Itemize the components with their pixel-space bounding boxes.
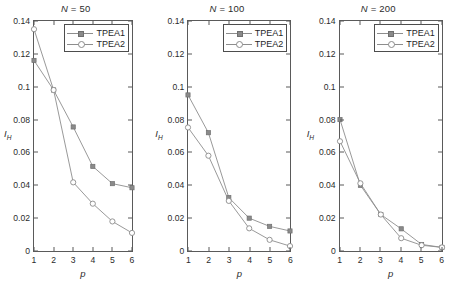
- x-axis-tick-mark: [229, 247, 230, 251]
- y-axis-tick-label: 0.04: [319, 180, 340, 190]
- x-axis-tick-label: 2: [358, 251, 363, 265]
- legend-label: TPEA2: [252, 39, 284, 49]
- y-axis-tick-label: 0.12: [13, 49, 34, 59]
- data-point-marker-circle: [51, 87, 56, 92]
- x-axis-tick-mark: [34, 247, 35, 251]
- x-axis-tick-label: 4: [398, 251, 403, 265]
- panel-n-200: N = 200 IH TPEA1 TPEA2 00.020.040.060.08…: [303, 0, 454, 287]
- panel-title-equals: =: [68, 3, 79, 14]
- legend-entry-tpea1: TPEA1: [226, 27, 284, 38]
- y-axis-label: IH: [307, 128, 314, 141]
- figure-three-panel-line-charts: N = 50 IH TPEA1 TPEA2 00.020.040.060.080…: [0, 0, 454, 287]
- x-axis-tick-mark: [421, 247, 422, 251]
- y-axis-tick-mark: [128, 152, 132, 153]
- y-axis-tick-label: 0.1: [172, 82, 188, 92]
- y-axis-tick-mark: [438, 119, 442, 120]
- y-axis-tick-mark: [34, 152, 38, 153]
- x-axis-tick-mark: [53, 247, 54, 251]
- y-axis-tick-mark: [438, 218, 442, 219]
- x-axis-tick-mark: [208, 21, 209, 25]
- x-axis-tick-mark: [441, 21, 442, 25]
- x-axis-tick-mark: [188, 247, 189, 251]
- y-axis-tick-mark: [34, 185, 38, 186]
- panel-n-100: N = 100 IH TPEA1 TPEA2 00.020.040.060.08…: [151, 0, 302, 287]
- x-axis-tick-mark: [421, 21, 422, 25]
- panel-title-variable: N: [361, 3, 368, 14]
- panel-title-value: 200: [379, 3, 395, 14]
- legend-entry-tpea2: TPEA2: [377, 38, 435, 49]
- x-axis-tick-label: 4: [247, 251, 252, 265]
- y-axis-tick-mark: [34, 119, 38, 120]
- data-point-marker-square: [91, 164, 95, 168]
- y-axis-tick-label: 0.06: [168, 147, 189, 157]
- legend-entry-tpea2: TPEA2: [67, 38, 125, 49]
- data-point-marker-circle: [31, 27, 36, 32]
- y-axis-tick-label: 0.08: [168, 115, 189, 125]
- y-axis-tick-mark: [340, 119, 344, 120]
- series-line-tpea2: [188, 127, 290, 246]
- y-axis-tick-label: 0.08: [13, 115, 34, 125]
- y-axis-label: IH: [4, 128, 11, 141]
- panel-title-variable: N: [61, 3, 68, 14]
- y-axis-tick-label: 0.06: [13, 147, 34, 157]
- x-axis-tick-label: 6: [130, 251, 135, 265]
- y-axis-tick-label: 0.02: [319, 213, 340, 223]
- y-axis-tick-mark: [438, 152, 442, 153]
- data-point-marker-circle: [337, 139, 342, 144]
- x-axis-tick-mark: [92, 21, 93, 25]
- y-axis-tick-label: 0.08: [319, 115, 340, 125]
- y-axis-tick-mark: [340, 53, 344, 54]
- y-axis-tick-mark: [340, 185, 344, 186]
- x-axis-tick-mark: [290, 247, 291, 251]
- panel-title: N = 200: [303, 3, 454, 14]
- legend-marker-open-circle-icon: [226, 38, 252, 49]
- legend: TPEA1 TPEA2: [64, 24, 129, 52]
- data-point-marker-square: [247, 216, 251, 220]
- x-axis-tick-label: 1: [186, 251, 191, 265]
- data-point-marker-square: [110, 182, 114, 186]
- x-axis-tick-mark: [112, 21, 113, 25]
- series-line-tpea1: [340, 120, 442, 248]
- series-layer: [188, 21, 290, 251]
- x-axis-tick-mark: [290, 21, 291, 25]
- data-point-marker-square: [130, 186, 134, 190]
- series-line-tpea1: [34, 60, 132, 187]
- series-line-tpea2: [34, 29, 132, 233]
- y-axis-tick-mark: [340, 152, 344, 153]
- y-axis-tick-mark: [438, 185, 442, 186]
- y-axis-tick-label: 0.14: [168, 16, 189, 26]
- y-axis-tick-mark: [340, 21, 344, 22]
- legend-label: TPEA1: [93, 28, 125, 38]
- series-layer: [340, 21, 442, 251]
- y-axis-tick-mark: [286, 119, 290, 120]
- y-axis-tick-mark: [34, 53, 38, 54]
- data-point-marker-circle: [378, 212, 383, 217]
- x-axis-label: p: [187, 268, 291, 279]
- y-axis-tick-mark: [128, 185, 132, 186]
- panel-title-equals: =: [368, 3, 379, 14]
- legend: TPEA1 TPEA2: [223, 24, 288, 52]
- y-axis-tick-mark: [286, 152, 290, 153]
- y-axis-tick-mark: [188, 119, 192, 120]
- y-axis-tick-label: 0.02: [13, 213, 34, 223]
- data-point-marker-circle: [110, 219, 115, 224]
- y-axis-tick-mark: [188, 53, 192, 54]
- plot-area: TPEA1 TPEA2 00.020.040.060.080.10.120.14…: [187, 20, 291, 252]
- data-point-marker-circle: [129, 230, 134, 235]
- legend-marker-open-circle-icon: [67, 38, 93, 49]
- data-point-marker-circle: [247, 226, 252, 231]
- data-point-marker-circle: [227, 198, 232, 203]
- data-point-marker-circle: [267, 237, 272, 242]
- panel-title-variable: N: [210, 3, 217, 14]
- x-axis-tick-label: 1: [32, 251, 37, 265]
- y-axis-tick-label: 0.04: [13, 180, 34, 190]
- x-axis-tick-label: 3: [378, 251, 383, 265]
- x-axis-tick-mark: [380, 21, 381, 25]
- series-line-tpea1: [188, 95, 290, 231]
- legend-entry-tpea1: TPEA1: [67, 27, 125, 38]
- data-point-marker-circle: [186, 125, 191, 130]
- y-axis-tick-label: 0.1: [324, 82, 340, 92]
- x-axis-tick-mark: [441, 247, 442, 251]
- legend-entry-tpea2: TPEA2: [226, 38, 284, 49]
- y-axis-tick-mark: [128, 218, 132, 219]
